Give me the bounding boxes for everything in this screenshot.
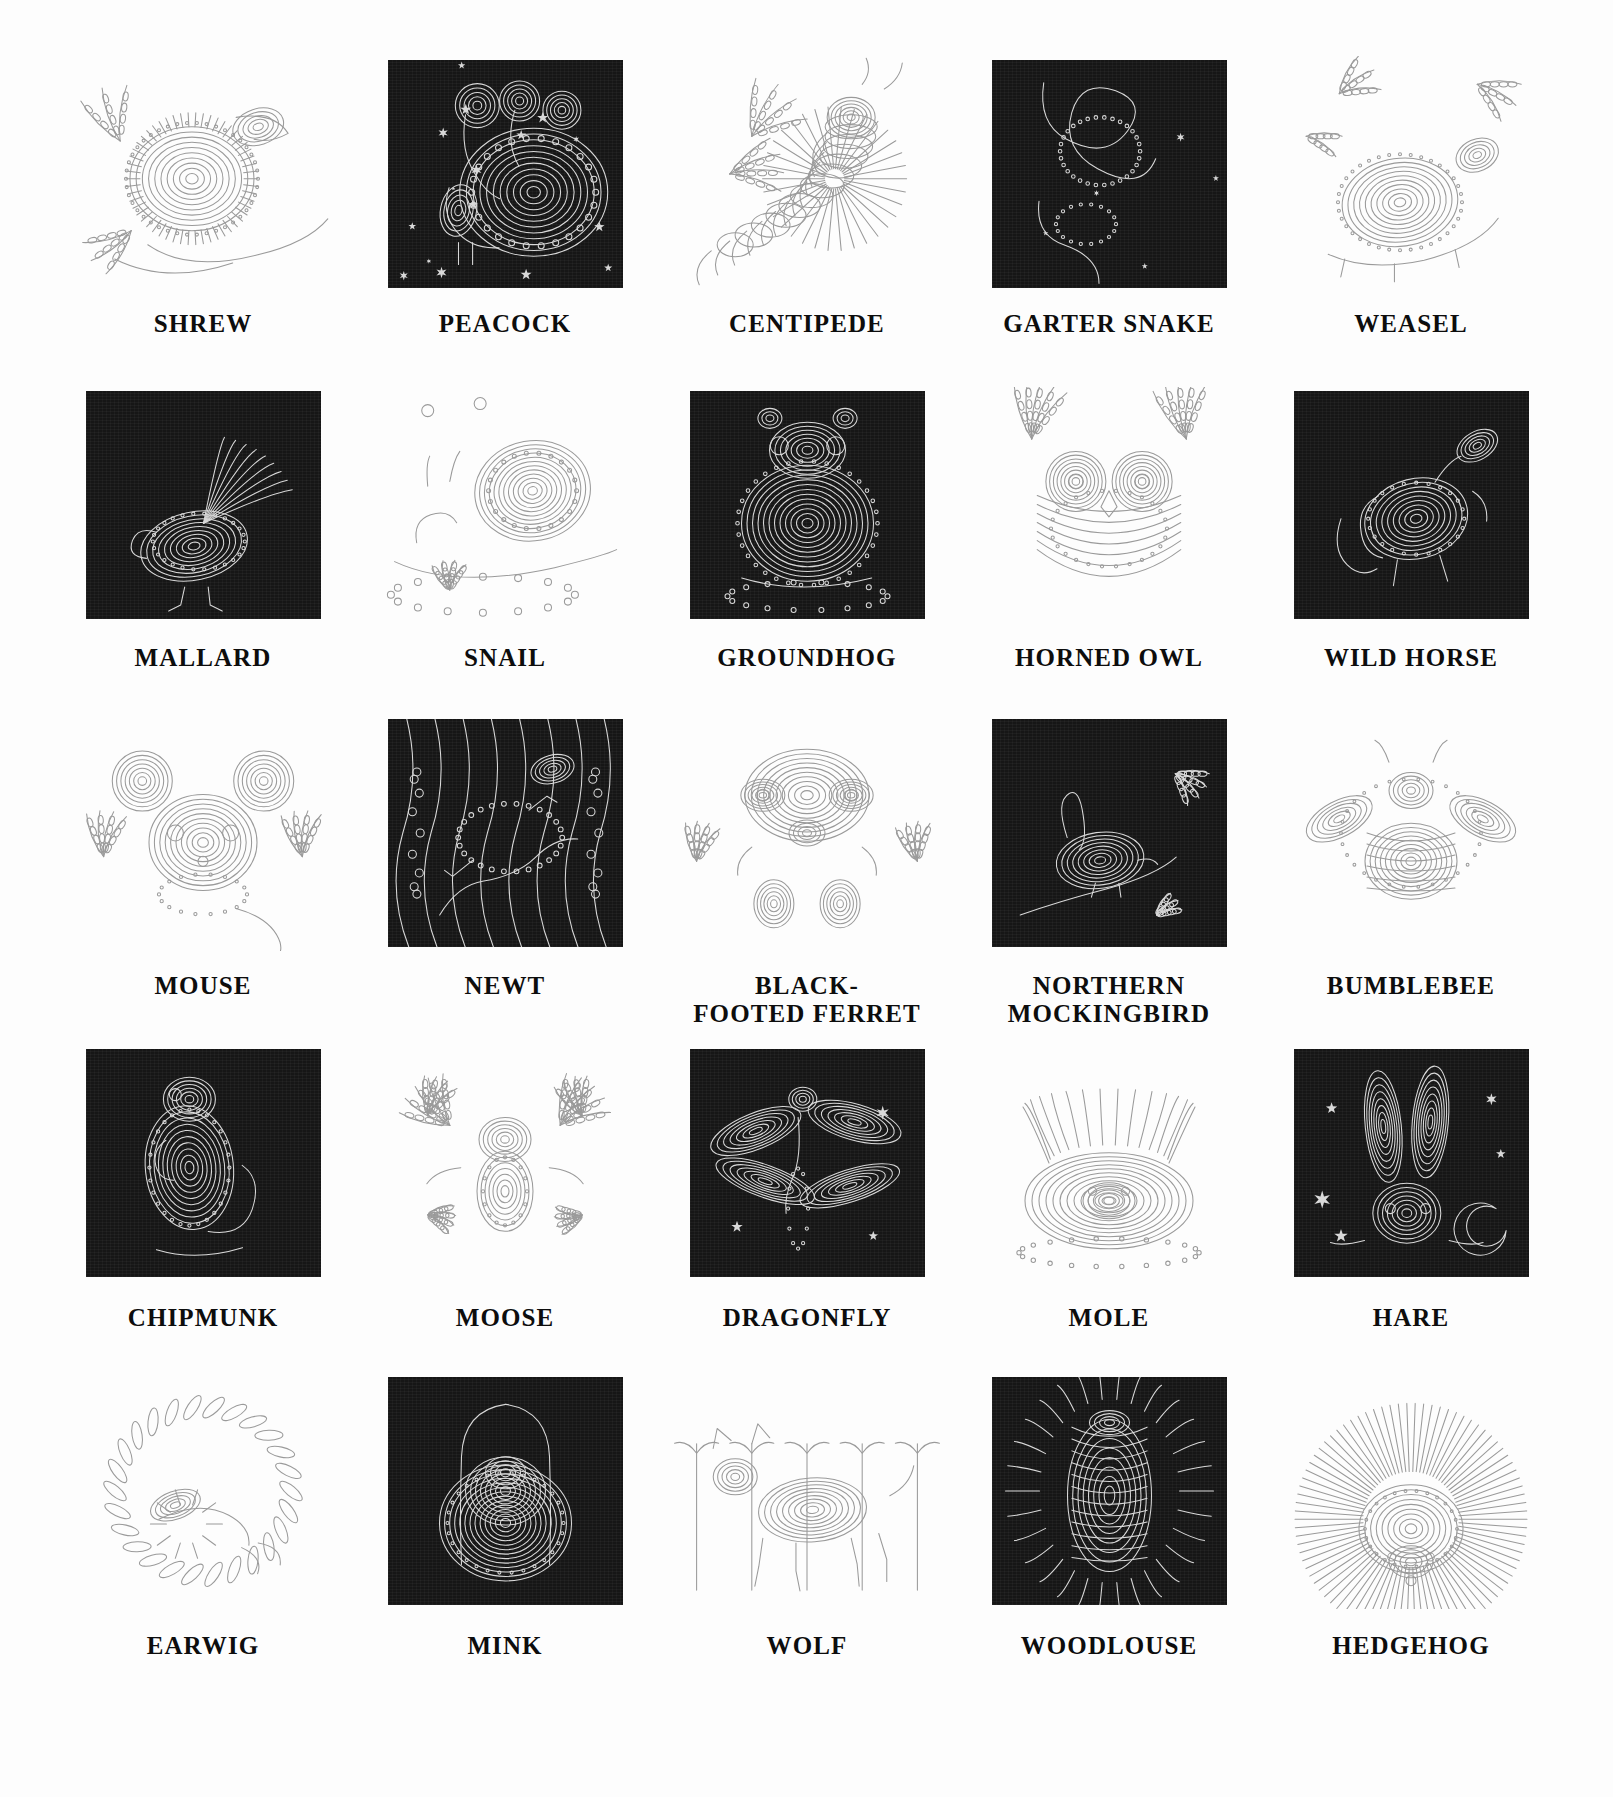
plate-cell[interactable]: SNAIL: [354, 376, 656, 700]
plate-caption: WOODLOUSE: [959, 1632, 1259, 1660]
plate-caption: MALLARD: [53, 644, 353, 672]
plate-cell[interactable]: CHIPMUNK: [52, 1032, 354, 1356]
plate-wolf[interactable]: [669, 1373, 945, 1609]
plate-northern-mockingbird[interactable]: [992, 719, 1227, 947]
plate-artwork: [992, 60, 1227, 288]
plate-image-wrap: [1260, 704, 1562, 962]
plate-cell[interactable]: WOODLOUSE: [958, 1360, 1260, 1684]
plate-artwork: [65, 715, 341, 951]
plate-centipede[interactable]: [669, 56, 945, 292]
plate-peacock[interactable]: [388, 60, 623, 288]
plate-image-wrap: [52, 1032, 354, 1294]
plate-caption: GROUNDHOG: [657, 644, 957, 672]
plate-image-wrap: [1260, 48, 1562, 300]
plate-image-wrap: [354, 48, 656, 300]
plate-chipmunk[interactable]: [86, 1049, 321, 1277]
plate-caption: BLACK- FOOTED FERRET: [657, 972, 957, 1028]
plate-artwork: [388, 1377, 623, 1605]
plate-mink[interactable]: [388, 1377, 623, 1605]
plate-bumblebee[interactable]: [1273, 715, 1549, 951]
plate-cell[interactable]: GROUNDHOG: [656, 376, 958, 700]
plate-image-wrap: [958, 48, 1260, 300]
plate-cell[interactable]: CENTIPEDE: [656, 48, 958, 372]
plate-caption: MOLE: [959, 1304, 1259, 1332]
plate-artwork: [669, 56, 945, 292]
plate-mole[interactable]: [971, 1045, 1247, 1281]
plate-cell[interactable]: DRAGONFLY: [656, 1032, 958, 1356]
plate-caption: GARTER SNAKE: [959, 310, 1259, 338]
plate-image-wrap: [656, 1360, 958, 1622]
plate-grid: SHREWPEACOCKCENTIPEDEGARTER SNAKEWEASELM…: [52, 48, 1562, 1684]
plate-artwork: [992, 1377, 1227, 1605]
plate-caption: WILD HORSE: [1261, 644, 1561, 672]
plate-cell[interactable]: MOOSE: [354, 1032, 656, 1356]
plate-caption: BUMBLEBEE: [1261, 972, 1561, 1000]
plate-artwork: [1294, 391, 1529, 619]
plate-artwork: [1273, 1373, 1549, 1609]
plate-image-wrap: [1260, 376, 1562, 634]
plate-caption: NORTHERN MOCKINGBIRD: [959, 972, 1259, 1028]
plate-index-page: SHREWPEACOCKCENTIPEDEGARTER SNAKEWEASELM…: [0, 0, 1613, 1797]
plate-image-wrap: [656, 1032, 958, 1294]
plate-cell[interactable]: WOLF: [656, 1360, 958, 1684]
plate-snail[interactable]: [367, 387, 643, 623]
plate-cell[interactable]: MOLE: [958, 1032, 1260, 1356]
plate-cell[interactable]: HARE: [1260, 1032, 1562, 1356]
plate-cell[interactable]: HORNED OWL: [958, 376, 1260, 700]
plate-groundhog[interactable]: [690, 391, 925, 619]
plate-artwork: [669, 1373, 945, 1609]
plate-black-footed-ferret[interactable]: [669, 715, 945, 951]
plate-image-wrap: [52, 48, 354, 300]
plate-artwork: [971, 387, 1247, 623]
plate-cell[interactable]: SHREW: [52, 48, 354, 372]
plate-artwork: [1273, 56, 1549, 292]
plate-cell[interactable]: BLACK- FOOTED FERRET: [656, 704, 958, 1028]
plate-garter-snake[interactable]: [992, 60, 1227, 288]
plate-caption: CENTIPEDE: [657, 310, 957, 338]
plate-image-wrap: [958, 704, 1260, 962]
plate-earwig[interactable]: [65, 1373, 341, 1609]
plate-cell[interactable]: WILD HORSE: [1260, 376, 1562, 700]
plate-image-wrap: [1260, 1032, 1562, 1294]
plate-moose[interactable]: [367, 1045, 643, 1281]
plate-dragonfly[interactable]: [690, 1049, 925, 1277]
plate-artwork: [992, 719, 1227, 947]
plate-caption: MINK: [355, 1632, 655, 1660]
plate-cell[interactable]: HEDGEHOG: [1260, 1360, 1562, 1684]
plate-cell[interactable]: GARTER SNAKE: [958, 48, 1260, 372]
plate-mallard[interactable]: [86, 391, 321, 619]
plate-caption: SHREW: [53, 310, 353, 338]
plate-hedgehog[interactable]: [1273, 1373, 1549, 1609]
plate-artwork: [690, 391, 925, 619]
plate-cell[interactable]: MOUSE: [52, 704, 354, 1028]
plate-mouse[interactable]: [65, 715, 341, 951]
plate-artwork: [86, 1049, 321, 1277]
plate-caption: DRAGONFLY: [657, 1304, 957, 1332]
plate-cell[interactable]: NEWT: [354, 704, 656, 1028]
plate-image-wrap: [656, 704, 958, 962]
plate-wild-horse[interactable]: [1294, 391, 1529, 619]
plate-caption: HEDGEHOG: [1261, 1632, 1561, 1660]
plate-artwork: [367, 1045, 643, 1281]
plate-cell[interactable]: BUMBLEBEE: [1260, 704, 1562, 1028]
plate-artwork: [367, 387, 643, 623]
plate-caption: HARE: [1261, 1304, 1561, 1332]
plate-shrew[interactable]: [65, 56, 341, 292]
plate-cell[interactable]: WEASEL: [1260, 48, 1562, 372]
plate-horned-owl[interactable]: [971, 387, 1247, 623]
plate-woodlouse[interactable]: [992, 1377, 1227, 1605]
plate-weasel[interactable]: [1273, 56, 1549, 292]
plate-caption: NEWT: [355, 972, 655, 1000]
plate-image-wrap: [354, 1032, 656, 1294]
plate-cell[interactable]: MALLARD: [52, 376, 354, 700]
plate-cell[interactable]: MINK: [354, 1360, 656, 1684]
plate-newt[interactable]: [388, 719, 623, 947]
plate-image-wrap: [656, 48, 958, 300]
plate-hare[interactable]: [1294, 1049, 1529, 1277]
plate-cell[interactable]: NORTHERN MOCKINGBIRD: [958, 704, 1260, 1028]
plate-cell[interactable]: EARWIG: [52, 1360, 354, 1684]
plate-image-wrap: [354, 376, 656, 634]
plate-caption: PEACOCK: [355, 310, 655, 338]
plate-artwork: [388, 60, 623, 288]
plate-cell[interactable]: PEACOCK: [354, 48, 656, 372]
